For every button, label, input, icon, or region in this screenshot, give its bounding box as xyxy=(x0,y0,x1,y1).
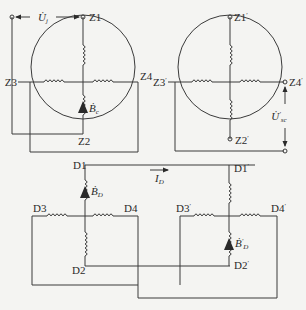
terminal-z4-prime: Z4′ xyxy=(289,76,303,88)
winding-diagram: U̇j Z1 Z3 Z4 Z2 Ḃc Z1′ Z3′ Z4′ Z2′ U̇′sc… xyxy=(0,0,306,310)
voltage-label-usc: U̇′sc xyxy=(271,110,287,124)
terminal-z1: Z1 xyxy=(89,11,101,23)
current-label-id: ID xyxy=(154,172,164,186)
terminal-z3: Z3 xyxy=(5,76,18,88)
terminal-z3-prime: Z3′ xyxy=(153,76,167,88)
flux-label-bd-prime: Ḃ′D xyxy=(235,237,248,251)
d-coil-right-right xyxy=(240,214,260,216)
d-coil-left-right xyxy=(194,214,214,216)
terminal-d2-prime: D2′ xyxy=(234,259,249,271)
terminal-z1-prime: Z1′ xyxy=(234,11,248,23)
terminal-d4-prime: D4′ xyxy=(271,202,286,214)
terminal-z2: Z2 xyxy=(78,135,90,147)
terminal-z2-prime: Z2′ xyxy=(235,134,249,146)
terminal-z4: Z4 xyxy=(140,70,153,82)
voltage-label-uj: U̇j xyxy=(38,11,48,25)
d-coil-left-left xyxy=(47,214,67,216)
terminal-d4: D4 xyxy=(124,202,138,214)
flux-label-bc: Ḃc xyxy=(89,102,100,116)
left-coil-left xyxy=(44,80,64,82)
left-coil-top xyxy=(83,45,85,65)
terminal-d1: D1 xyxy=(73,159,86,171)
left-coil-right xyxy=(93,80,113,82)
d-coil-top-right xyxy=(229,183,231,203)
flux-label-bd: ḂD xyxy=(91,185,103,199)
terminal-d3: D3 xyxy=(33,202,47,214)
right-coil-bottom xyxy=(230,100,232,120)
terminal-d2: D2 xyxy=(72,264,85,276)
right-coil-top xyxy=(230,45,232,65)
right-coil-right xyxy=(240,80,260,82)
d-coil-right-left xyxy=(93,214,113,216)
right-coil-left xyxy=(192,80,212,82)
terminal-d3-prime: D3′ xyxy=(176,202,191,214)
terminal-d1-prime: D1′ xyxy=(234,162,249,174)
d-coil-bottom-left xyxy=(85,232,87,256)
